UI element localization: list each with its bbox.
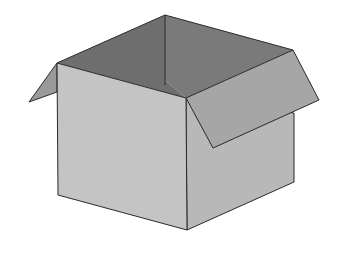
open-box-illustration (0, 0, 343, 253)
box-left-flap (29, 63, 57, 102)
